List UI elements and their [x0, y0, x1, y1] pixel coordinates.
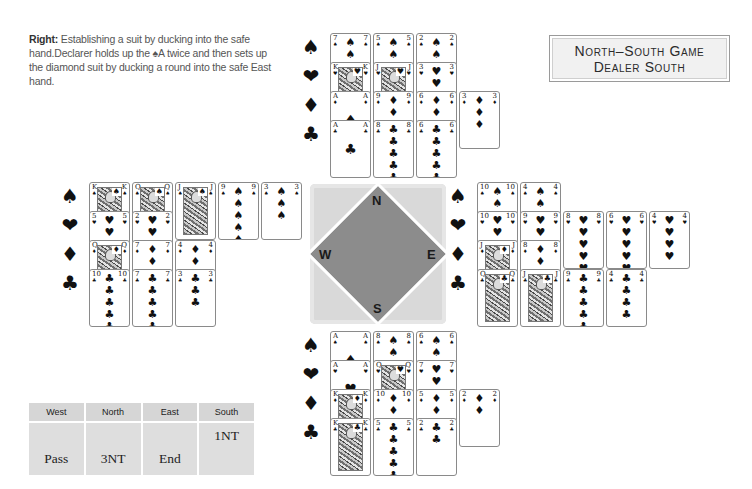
deal-title-line2: Dealer South	[594, 59, 686, 75]
diamonds-icon: ♦	[353, 395, 362, 403]
bid: End	[143, 451, 198, 467]
clubs-icon: ♣	[640, 278, 644, 283]
clubs-icon: ♣	[389, 172, 399, 178]
diamonds-icon: ♦	[112, 246, 121, 254]
hearts-suit-icon: ❤	[59, 215, 81, 235]
clubs-icon: ♣	[432, 160, 442, 171]
clubs-icon: ♣	[123, 278, 127, 283]
diamonds-icon: ♦	[536, 244, 546, 255]
bid-cell-north: 3NT	[86, 423, 141, 475]
card-pips: ♣♣♣♣♣	[382, 422, 405, 472]
spades-icon: ♠	[432, 49, 442, 60]
spades-icon: ♠	[389, 37, 399, 48]
hearts-icon: ♥	[523, 220, 527, 225]
diamonds-icon: ♦	[493, 100, 497, 105]
spades-icon: ♠	[333, 340, 337, 345]
playing-card: 1010♣♣♣♣♣♣♣♣♣♣♣♣	[89, 269, 130, 327]
spades-icon: ♠	[493, 198, 503, 209]
spades-icon: ♠	[234, 186, 244, 197]
bid-header-west: West	[29, 403, 84, 421]
spades-icon: ♠	[480, 191, 484, 196]
hearts-icon: ♥	[333, 369, 337, 374]
diamonds-icon: ♦	[554, 249, 558, 254]
hearts-icon: ♥	[665, 239, 675, 250]
playing-card: 33♦♦♦♦♦	[459, 91, 500, 149]
clubs-icon: ♣	[333, 129, 337, 134]
clubs-icon: ♣	[543, 275, 552, 283]
card-pips: ♣♣♣♣♣♣♣♣♣♣	[98, 273, 121, 323]
spades-icon: ♠	[432, 335, 442, 346]
diamonds-icon: ♦	[475, 95, 485, 106]
card-pips: ♥♥♥♥♥♥♥♥	[572, 215, 595, 265]
clubs-icon: ♣	[389, 434, 399, 445]
hearts-icon: ♥	[493, 227, 503, 238]
clubs-suit-icon: ♣	[300, 124, 322, 144]
clubs-icon: ♣	[597, 278, 601, 283]
clubs-icon: ♣	[344, 144, 357, 155]
card-pips: ♣♣♣♣♣♣	[425, 124, 448, 174]
spades-icon: ♠	[407, 340, 411, 345]
playing-card: 22♣♣♣♣	[416, 418, 457, 476]
spades-icon: ♠	[155, 188, 164, 196]
clubs-icon: ♣	[511, 278, 515, 283]
diamonds-icon: ♦	[123, 249, 127, 254]
compass-west: W	[319, 247, 331, 262]
card-pips: ♣	[339, 124, 362, 174]
hearts-icon: ♥	[353, 68, 362, 76]
spades-suit-icon: ♠	[447, 186, 469, 206]
spades-icon: ♠	[376, 340, 380, 345]
spades-suit-icon: ♠	[59, 186, 81, 206]
hearts-suit-icon: ❤	[300, 364, 322, 384]
hearts-icon: ♥	[105, 227, 115, 238]
clubs-icon: ♣	[407, 427, 411, 432]
hearts-icon: ♥	[135, 220, 139, 225]
playing-card: 33♣♣♣♣♣	[175, 269, 216, 327]
spades-icon: ♠	[419, 42, 423, 47]
spades-icon: ♠	[135, 191, 139, 196]
hearts-icon: ♥	[622, 215, 632, 226]
clubs-icon: ♣	[148, 309, 158, 320]
spades-icon: ♠	[333, 42, 337, 47]
playing-card: 33♠♠♠♠♠	[261, 182, 302, 240]
card-pips: ♥♥♥♥♥♥	[615, 215, 638, 265]
spades-icon: ♠	[376, 42, 380, 47]
clubs-icon: ♣	[191, 273, 201, 284]
clubs-icon: ♣	[407, 129, 411, 134]
hearts-icon: ♥	[622, 239, 632, 250]
card-pips: ♣♣♣♣	[615, 273, 638, 323]
playing-card: 55♣♣♣♣♣♣♣	[373, 418, 414, 476]
playing-card: 44♥♥♥♥♥♥	[649, 211, 690, 269]
diamonds-icon: ♦	[407, 398, 411, 403]
bid-cell-west: Pass	[29, 423, 84, 475]
hearts-icon: ♥	[407, 71, 411, 76]
spades-icon: ♠	[407, 42, 411, 47]
diamonds-icon: ♦	[419, 100, 423, 105]
clubs-icon: ♣	[353, 424, 362, 432]
spades-icon: ♠	[112, 188, 121, 196]
diamonds-icon: ♦	[389, 107, 399, 118]
spades-icon: ♠	[277, 186, 287, 197]
hearts-icon: ♥	[333, 71, 337, 76]
clubs-icon: ♣	[554, 278, 558, 283]
hearts-icon: ♥	[597, 220, 601, 225]
playing-card: 77♣♣♣♣♣♣♣♣♣	[132, 269, 173, 327]
clubs-suit-icon: ♣	[447, 273, 469, 293]
spades-icon: ♠	[166, 191, 170, 196]
hearts-icon: ♥	[105, 215, 115, 226]
hearts-icon: ♥	[652, 220, 656, 225]
diamonds-icon: ♦	[450, 398, 454, 403]
hearts-icon: ♥	[148, 215, 158, 226]
hearts-icon: ♥	[536, 227, 546, 238]
card-pips: ♣♣♣♣♣♣♣♣	[382, 124, 405, 174]
spades-icon: ♠	[178, 191, 182, 196]
hearts-icon: ♥	[622, 251, 632, 262]
spades-icon: ♠	[234, 198, 244, 209]
clubs-icon: ♣	[566, 278, 570, 283]
clubs-icon: ♣	[432, 422, 442, 433]
diamonds-icon: ♦	[376, 100, 380, 105]
card-pips: ♣♣♣	[184, 273, 207, 323]
bid-header-north: North	[86, 403, 141, 421]
card-pips: ♦♦	[468, 393, 491, 443]
clubs-icon: ♣	[148, 297, 158, 308]
diamonds-icon: ♦	[462, 398, 466, 403]
